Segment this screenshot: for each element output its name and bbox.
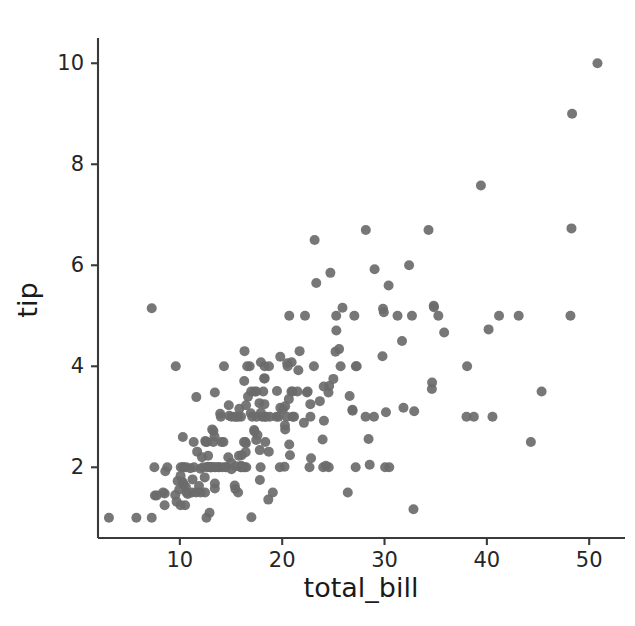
data-point [337, 303, 347, 313]
data-point [361, 412, 371, 422]
data-point [241, 447, 251, 457]
data-point [255, 475, 265, 485]
data-point [176, 462, 186, 472]
data-point [210, 484, 220, 494]
data-point [427, 377, 437, 387]
data-point [221, 462, 231, 472]
data-point [310, 235, 320, 245]
data-point [365, 460, 375, 470]
data-point [183, 489, 193, 499]
data-point [201, 513, 211, 523]
data-point [191, 488, 201, 498]
data-point [309, 361, 319, 371]
data-point [219, 361, 229, 371]
data-point [265, 412, 275, 422]
data-point [336, 361, 346, 371]
data-point [311, 278, 321, 288]
data-point [349, 311, 359, 321]
data-point [275, 352, 285, 362]
x-tick-label: 30 [371, 548, 398, 572]
data-point [381, 407, 391, 417]
data-point [282, 412, 292, 422]
y-axis-label: tip [12, 282, 43, 317]
data-point [305, 399, 315, 409]
data-point [256, 462, 266, 472]
data-point [285, 450, 295, 460]
data-point [171, 361, 181, 371]
data-point [514, 311, 524, 321]
data-point [462, 361, 472, 371]
data-point [191, 392, 201, 402]
data-point [210, 388, 220, 398]
data-point [404, 260, 414, 270]
data-point [176, 500, 186, 510]
data-point [484, 324, 494, 334]
data-point [223, 452, 233, 462]
data-point [208, 426, 218, 436]
data-point [439, 327, 449, 337]
data-point [260, 437, 270, 447]
data-point [328, 374, 338, 384]
data-point [378, 304, 388, 314]
data-point [302, 388, 312, 398]
data-point [429, 302, 439, 312]
data-point [263, 495, 273, 505]
data-point [565, 311, 575, 321]
data-point [173, 476, 183, 486]
figure-background [0, 0, 635, 626]
data-point [152, 491, 162, 501]
data-point [494, 311, 504, 321]
data-point [347, 405, 357, 415]
data-point [275, 462, 285, 472]
data-point [306, 453, 316, 463]
data-point [197, 452, 207, 462]
plot-canvas: 1020304050 246810 total_bill tip [0, 0, 635, 626]
data-point [178, 432, 188, 442]
data-point [370, 264, 380, 274]
y-tick-label: 10 [57, 51, 84, 75]
data-point [526, 437, 536, 447]
data-point [315, 396, 325, 406]
data-point [280, 420, 290, 430]
data-point [380, 462, 390, 472]
data-point [283, 361, 293, 371]
y-tick-label: 4 [71, 354, 84, 378]
data-point [200, 472, 210, 482]
scatter-plot-figure: 1020304050 246810 total_bill tip [0, 0, 635, 626]
data-point [239, 376, 249, 386]
data-point [233, 488, 243, 498]
data-point [252, 412, 262, 422]
data-point [377, 351, 387, 361]
data-point [537, 387, 547, 397]
data-point [566, 223, 576, 233]
x-axis-label: total_bill [304, 572, 419, 603]
data-point [325, 268, 335, 278]
data-point [206, 462, 216, 472]
data-point [231, 412, 241, 422]
data-point [264, 361, 274, 371]
data-point [147, 303, 157, 313]
data-point [300, 311, 310, 321]
data-point [305, 462, 315, 472]
data-point [567, 109, 577, 119]
data-point [352, 361, 362, 371]
data-point [286, 387, 296, 397]
data-point [397, 336, 407, 346]
data-point [284, 440, 294, 450]
data-point [264, 447, 274, 457]
x-tick-label: 10 [166, 548, 193, 572]
data-point [318, 462, 328, 472]
data-point [131, 513, 141, 523]
data-point [239, 437, 249, 447]
data-point [424, 225, 434, 235]
data-point [364, 434, 374, 444]
x-tick-label: 40 [473, 548, 500, 572]
data-point [216, 412, 226, 422]
data-point [258, 387, 268, 397]
data-point [351, 462, 361, 472]
y-tick-label: 2 [71, 455, 84, 479]
data-point [259, 399, 269, 409]
data-point [345, 391, 355, 401]
data-point [241, 400, 251, 410]
data-point [487, 412, 497, 422]
